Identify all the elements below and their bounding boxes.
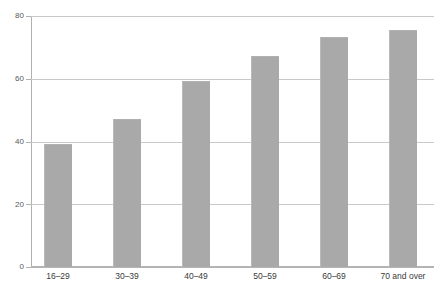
x-axis-line (26, 267, 434, 268)
x-tick-label-0: 16–29 (46, 272, 70, 281)
x-tick-label-3: 50–59 (253, 272, 277, 281)
y-tick-label-80: 80 (2, 12, 24, 20)
y-tick-label-60: 60 (2, 75, 24, 83)
bar-5 (389, 30, 417, 267)
plot-area (31, 16, 434, 267)
bar-3 (251, 56, 279, 267)
clipped-title-fragment (30, 0, 150, 3)
bar-1 (113, 119, 141, 267)
gridline-40 (31, 142, 434, 143)
gridline-60 (31, 79, 434, 80)
x-axis-tick-labels: 16–29 30–39 40–49 50–59 60–69 70 and ove… (0, 272, 440, 288)
y-tick-label-0: 0 (2, 263, 24, 271)
x-tick-label-5: 70 and over (381, 272, 426, 281)
gridline-80 (31, 16, 434, 17)
y-tick-label-20: 20 (2, 201, 24, 209)
bar-0 (44, 144, 72, 267)
bar-4 (320, 37, 348, 267)
gridline-20 (31, 204, 434, 205)
y-axis-tick-labels: 80 60 40 20 0 (0, 0, 24, 299)
y-tick-label-40: 40 (2, 138, 24, 146)
x-tick-label-1: 30–39 (115, 272, 139, 281)
x-tick-label-4: 60–69 (322, 272, 346, 281)
bar-2 (182, 81, 210, 267)
gridline-0 (31, 266, 434, 267)
x-tick-label-2: 40–49 (184, 272, 208, 281)
bar-chart-figure: 80 60 40 20 0 16–29 30–39 40–49 50–59 60… (0, 0, 440, 299)
